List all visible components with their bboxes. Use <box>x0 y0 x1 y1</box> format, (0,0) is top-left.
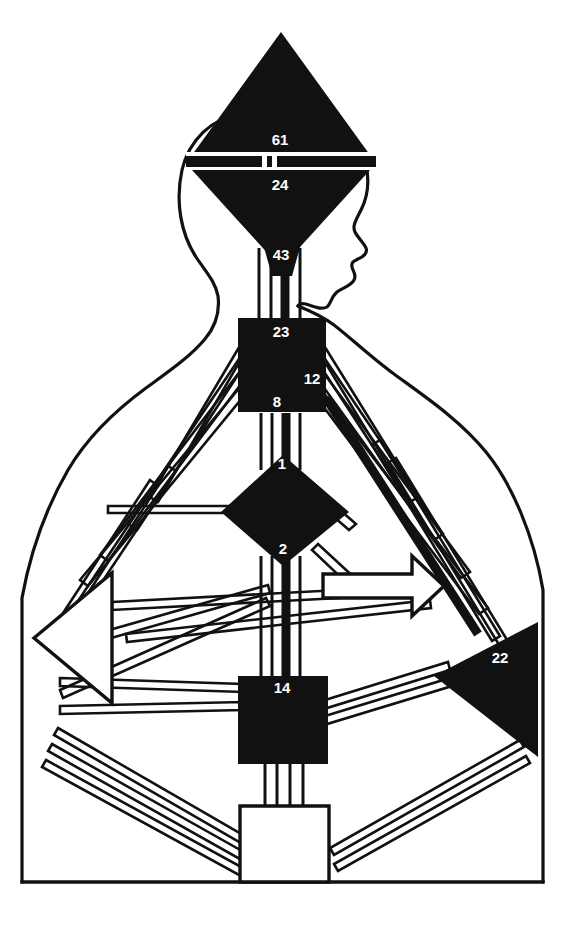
node-label-23: 23 <box>273 323 290 340</box>
node-label-22: 22 <box>492 649 509 666</box>
head-band-stripe-2 <box>272 152 277 172</box>
node-label-14: 14 <box>274 679 291 696</box>
filled-nodes-group <box>186 32 538 764</box>
tract-left-to-base-b <box>48 744 258 867</box>
tract-pelvis-to-node22-b <box>325 678 452 724</box>
head-band-bar <box>186 156 376 167</box>
head-and-body-outline <box>22 115 239 882</box>
node-label-1: 1 <box>278 455 286 472</box>
head-band-stripe-1 <box>262 152 267 172</box>
tract-node22-to-base-b <box>334 756 530 871</box>
node-label-12: 12 <box>304 370 321 387</box>
tract-left-to-base-c <box>42 760 254 881</box>
node-label-2: 2 <box>279 540 287 557</box>
tract-node22-to-base-a <box>330 740 524 855</box>
node-label-24: 24 <box>272 176 289 193</box>
node-label-8: 8 <box>273 393 281 410</box>
figure-root: 61 24 43 23 12 8 1 2 14 22 <box>0 0 578 926</box>
tract-diamond-left-link <box>108 506 237 513</box>
node-22-shape[interactable] <box>434 622 538 757</box>
body-connectivity-diagram: 61 24 43 23 12 8 1 2 14 22 <box>0 0 578 926</box>
tract-left-to-pelvis-b <box>60 702 243 714</box>
node-label-43: 43 <box>273 246 290 263</box>
node-open-base-square[interactable] <box>240 806 329 882</box>
node-label-61: 61 <box>272 131 289 148</box>
